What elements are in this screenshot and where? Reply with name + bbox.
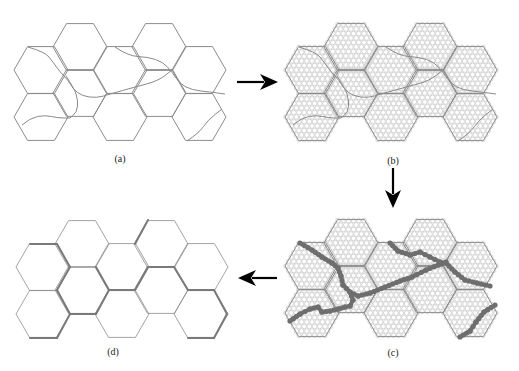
panel-a-label: (a): [114, 153, 125, 164]
hex-cell: [174, 291, 228, 338]
panel-d-hex-boundaries: [16, 220, 228, 338]
boundary-edge: [174, 267, 188, 290]
hex-cells: [14, 24, 226, 141]
arrow-left-icon: [238, 270, 277, 286]
panel-a-hex-grid-with-curves: [14, 24, 226, 141]
hex-cell: [134, 267, 188, 314]
panel-b-label: (b): [387, 155, 399, 166]
arrow-down-icon: [385, 168, 401, 208]
hex-cell: [132, 70, 186, 117]
boundary-curve: [28, 47, 172, 97]
hex-cell: [95, 244, 149, 291]
hex-cell: [285, 94, 339, 141]
boundary-edge: [135, 267, 148, 290]
approximated-boundaries: [30, 220, 227, 338]
boundary-edge: [96, 267, 109, 290]
selected-cell-path: [457, 302, 497, 339]
hex-cell: [95, 291, 149, 338]
boundary-edge: [57, 267, 70, 290]
hex-cell: [134, 221, 188, 268]
hex-cell: [14, 47, 68, 94]
hex-cell: [364, 290, 418, 337]
boundary-edge: [214, 290, 227, 314]
arrow-right-icon: [237, 74, 278, 90]
boundary-curve: [22, 116, 70, 125]
boundary-curve: [66, 76, 78, 118]
hex-cell: [53, 70, 107, 117]
hex-cell: [172, 94, 226, 141]
boundary-edge: [214, 314, 227, 338]
boundary-edge: [135, 220, 148, 244]
hex-cell: [16, 244, 70, 291]
hex-cell: [174, 244, 228, 291]
boundary-edge: [57, 290, 70, 314]
cell-circles: [284, 22, 499, 142]
hex-cell: [53, 24, 107, 71]
boundary-curve: [115, 47, 225, 94]
panel-d-label: (d): [107, 346, 119, 357]
boundary-edge: [57, 244, 70, 267]
hex-cell: [93, 94, 147, 141]
panel-c-cell-paths: [284, 218, 499, 339]
boundary-edge: [96, 290, 109, 314]
panel-c-label: (c): [387, 347, 398, 358]
figure-canvas: [0, 0, 519, 371]
hex-cell: [55, 221, 109, 268]
hex-cell: [132, 24, 186, 71]
hex-cell: [172, 47, 226, 94]
boundary-edge: [57, 314, 70, 338]
panel-b-hex-grid-with-cells: [284, 22, 499, 142]
hex-cell: [364, 94, 418, 141]
boundary-curve: [187, 109, 222, 141]
hex-cell: [14, 94, 68, 141]
hex-cell: [443, 94, 497, 141]
hex-cells: [16, 221, 228, 338]
